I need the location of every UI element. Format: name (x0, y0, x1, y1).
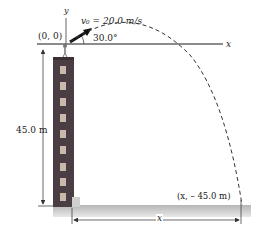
building-windows (60, 66, 66, 201)
angle-label: 30.0° (93, 34, 118, 43)
landing-point-label: (x, – 45.0 m) (177, 192, 230, 201)
building (53, 57, 80, 207)
trajectory-path (70, 22, 242, 205)
velocity-label: v₀ = 20.0 m/s (81, 17, 142, 26)
y-axis-label: y (64, 7, 69, 15)
ground (53, 205, 251, 217)
person-icon (63, 44, 67, 57)
distance-label: x (156, 214, 163, 223)
origin-label: (0, 0) (38, 32, 62, 41)
height-label: 45.0 m (16, 126, 47, 135)
x-axis-label: x (226, 40, 231, 49)
